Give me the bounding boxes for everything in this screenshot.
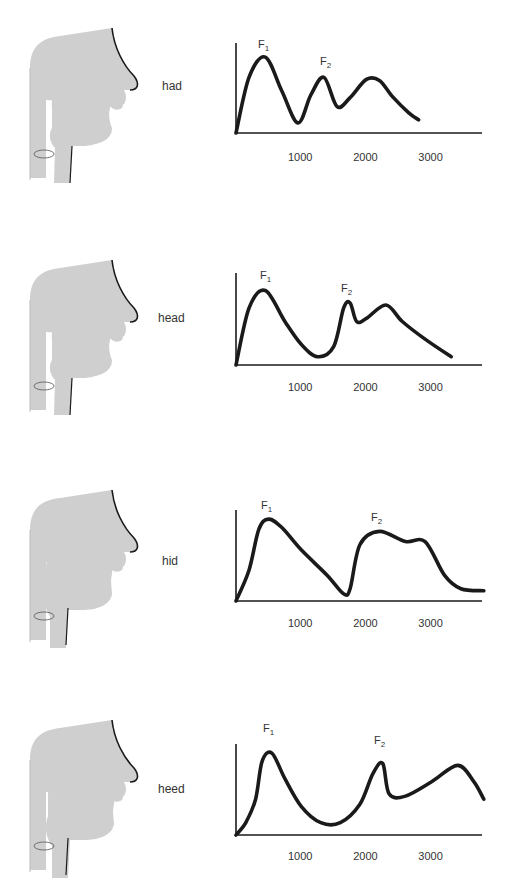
x-tick-label: 3000 bbox=[418, 850, 442, 862]
f2-letter: F bbox=[374, 734, 381, 746]
spectrum-curve bbox=[236, 752, 484, 835]
x-tick-label: 1000 bbox=[288, 617, 312, 629]
x-tick-label: 3000 bbox=[418, 617, 442, 629]
tongue-jaw bbox=[50, 318, 112, 415]
f1-subscript: 1 bbox=[270, 728, 274, 737]
f1-subscript: 1 bbox=[267, 275, 271, 284]
f2-subscript: 2 bbox=[327, 61, 331, 70]
x-tick-label: 3000 bbox=[418, 381, 442, 393]
vowel-word-label: heed bbox=[158, 782, 185, 796]
f1-letter: F bbox=[261, 499, 268, 511]
x-tick-label: 2000 bbox=[353, 850, 377, 862]
vocal-tract-diagram bbox=[0, 470, 150, 670]
f2-letter: F bbox=[371, 511, 378, 523]
x-tick-label: 2000 bbox=[353, 151, 377, 163]
f2-subscript: 2 bbox=[348, 288, 352, 297]
x-tick-label: 2000 bbox=[353, 381, 377, 393]
f2-subscript: 2 bbox=[381, 740, 385, 749]
f2-letter: F bbox=[320, 55, 327, 67]
f1-letter: F bbox=[263, 722, 270, 734]
tongue-jaw bbox=[44, 542, 112, 648]
f1-letter: F bbox=[260, 269, 267, 281]
x-tick-label: 3000 bbox=[418, 151, 442, 163]
vocal-tract-diagram bbox=[0, 8, 150, 208]
tongue-jaw bbox=[50, 86, 112, 183]
vocal-tract-diagram bbox=[0, 240, 150, 440]
f1-label: F1 bbox=[263, 722, 274, 737]
tongue-jaw bbox=[46, 770, 114, 878]
x-tick-label: 1000 bbox=[288, 850, 312, 862]
vocal-tract-diagram bbox=[0, 700, 150, 882]
spectrum-curve bbox=[236, 519, 484, 601]
f1-label: F1 bbox=[260, 269, 271, 284]
f2-subscript: 2 bbox=[378, 517, 382, 526]
vowel-word-label: head bbox=[158, 311, 185, 325]
x-tick-label: 2000 bbox=[353, 617, 377, 629]
f1-label: F1 bbox=[258, 38, 269, 53]
f1-letter: F bbox=[258, 38, 265, 50]
f2-label: F2 bbox=[341, 282, 352, 297]
x-tick-label: 1000 bbox=[288, 151, 312, 163]
x-tick-label: 1000 bbox=[288, 381, 312, 393]
f2-letter: F bbox=[341, 282, 348, 294]
spectrum-curve bbox=[236, 290, 451, 365]
vowel-word-label: had bbox=[162, 79, 182, 93]
f1-label: F1 bbox=[261, 499, 272, 514]
f1-subscript: 1 bbox=[265, 44, 269, 53]
vowel-word-label: hid bbox=[162, 554, 178, 568]
f2-label: F2 bbox=[320, 55, 331, 70]
f2-label: F2 bbox=[371, 511, 382, 526]
f2-label: F2 bbox=[374, 734, 385, 749]
f1-subscript: 1 bbox=[268, 505, 272, 514]
